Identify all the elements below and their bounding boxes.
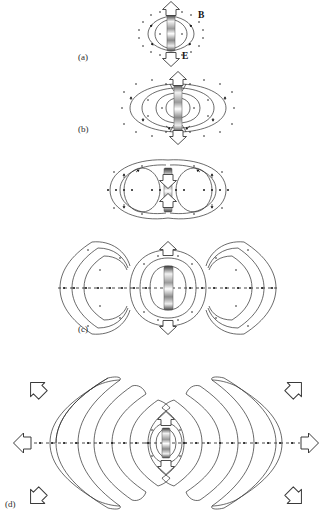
magnetic-field-label: B <box>198 10 204 20</box>
panel-label-b: (b) <box>78 124 89 134</box>
panel-b-dipole-antenna <box>174 84 182 132</box>
panel-label-a: (a) <box>78 52 88 62</box>
panel-label-d: (d) <box>5 499 16 509</box>
panel-d-dipole-antenna <box>162 428 170 458</box>
panel-label-c: (c) <box>78 324 88 334</box>
electric-field-label: E <box>182 51 188 61</box>
dipole-radiation-figure: (a) (b) (c) (d) B E <box>0 0 329 517</box>
panel-a-dipole-antenna <box>167 15 175 51</box>
panel-c-dipole-antenna <box>164 266 173 310</box>
figure-canvas <box>0 0 329 517</box>
